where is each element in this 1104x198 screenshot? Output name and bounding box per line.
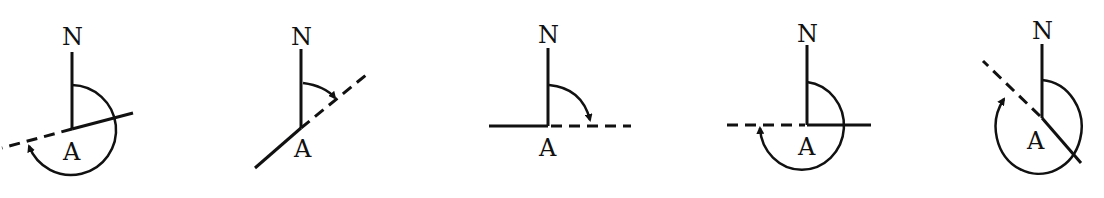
point-label: A: [1026, 127, 1045, 155]
solid-direction-line: [1042, 118, 1081, 163]
dashed-bearing-line: [983, 61, 1040, 116]
point-label: A: [797, 133, 816, 161]
diagram-2: N A: [255, 23, 366, 168]
north-label: N: [538, 21, 559, 49]
point-label: A: [62, 138, 81, 166]
bearing-arc-arrow: [303, 83, 335, 98]
north-label: N: [62, 23, 83, 51]
point-label: A: [538, 134, 557, 162]
point-label: A: [293, 135, 312, 163]
solid-direction-line: [72, 113, 133, 129]
bearing-diagrams: N A N A N A N A N A: [0, 0, 1104, 198]
diagram-4: N A: [727, 20, 871, 170]
diagram-3: N A: [489, 21, 631, 162]
north-label: N: [797, 20, 818, 48]
diagram-5: N A: [983, 17, 1082, 174]
diagram-1: N A: [2, 23, 133, 175]
bearing-arc-arrow: [549, 85, 590, 120]
dashed-bearing-line: [2, 129, 72, 148]
north-label: N: [1032, 17, 1053, 45]
dashed-bearing-line: [301, 75, 366, 128]
north-label: N: [291, 23, 312, 51]
